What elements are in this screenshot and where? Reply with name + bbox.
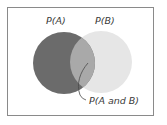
label-p-a-and-b: P(A and B): [89, 95, 139, 106]
label-p-a: P(A): [46, 15, 66, 26]
venn-diagram: P(A) P(B) P(A and B): [0, 0, 167, 125]
label-p-b: P(B): [95, 15, 115, 26]
